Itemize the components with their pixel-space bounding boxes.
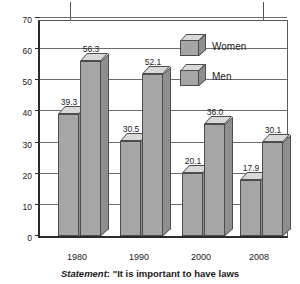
bar-value-label: 30.1	[253, 126, 293, 135]
caption-lead: Statement	[61, 268, 107, 279]
bar-value-label: 36.0	[195, 108, 235, 117]
gridline	[40, 17, 287, 18]
chart-caption: Statement: "It is important to have laws	[0, 268, 300, 280]
y-tick-label: 60	[8, 47, 32, 56]
bar-men-1980	[58, 114, 79, 236]
y-tick-label: 30	[8, 141, 32, 150]
y-tick-mark	[35, 235, 40, 236]
y-tick-label: 40	[8, 109, 32, 118]
bar-value-label: 56.3	[71, 45, 111, 54]
y-tick-label: 20	[8, 172, 32, 181]
bar-women-2008	[262, 142, 283, 236]
y-tick-mark	[35, 79, 40, 80]
y-tick-mark	[35, 17, 40, 18]
bar-women-1990	[142, 74, 163, 236]
bar-value-label: 52.1	[133, 58, 173, 67]
y-tick-mark	[35, 110, 40, 111]
x-tick-label-1990: 1990	[109, 252, 169, 262]
y-tick-mark	[35, 173, 40, 174]
y-tick-label: 70	[8, 16, 32, 25]
y-tick-mark	[35, 142, 40, 143]
legend-swatch-women-icon	[180, 40, 199, 56]
legend-label-women: Women	[212, 41, 246, 52]
bar-men-2000	[182, 173, 203, 236]
bar-women-1980	[80, 61, 101, 236]
bar-men-1990	[120, 141, 141, 236]
bar-women-2000	[204, 124, 225, 236]
x-tick-label-1980: 1980	[47, 252, 107, 262]
bar-chart-figure: Percentage Agreeing "Strongly" or "Somew…	[0, 0, 300, 284]
y-tick-label: 50	[8, 78, 32, 87]
y-tick-mark	[35, 48, 40, 49]
legend-swatch-men-icon	[180, 70, 199, 86]
legend-label-men: Men	[212, 71, 231, 82]
x-tick-label-2008: 2008	[229, 252, 289, 262]
y-tick-mark	[35, 204, 40, 205]
x-tick-label-2000: 2000	[171, 252, 231, 262]
bar-men-2008	[240, 180, 261, 236]
y-tick-label: 10	[8, 203, 32, 212]
caption-rest: : "It is important to have laws	[107, 268, 239, 279]
plot-area: 39.356.330.552.120.136.017.930.1	[38, 20, 288, 238]
y-tick-label: 0	[8, 234, 32, 243]
